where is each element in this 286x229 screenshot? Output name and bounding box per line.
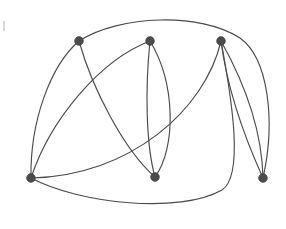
graph-vertex — [151, 173, 160, 182]
graph-vertex — [259, 174, 268, 183]
graph-vertex — [27, 174, 36, 183]
scan-artifact-speck — [3, 21, 5, 31]
graph-figure — [0, 0, 286, 229]
graph-canvas — [0, 0, 286, 229]
graph-vertex — [75, 37, 84, 46]
graph-vertex — [217, 37, 226, 46]
figure-background — [0, 0, 286, 229]
graph-vertex — [146, 37, 155, 46]
